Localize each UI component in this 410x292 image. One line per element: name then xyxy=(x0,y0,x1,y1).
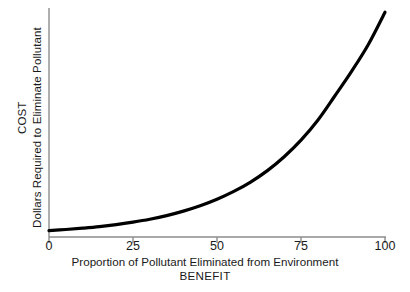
x-axis-tick-labels: 0255075100 xyxy=(0,239,410,255)
x-tick-label-25: 25 xyxy=(126,239,140,253)
x-axis-caption: Proportion of Pollutant Eliminated from … xyxy=(0,255,410,282)
x-axis-caption-line2: BENEFIT xyxy=(0,269,410,283)
y-axis-title-inner: Dollars Required to Eliminate Pollutant xyxy=(31,27,43,228)
y-axis-title-outer: COST xyxy=(16,102,28,134)
x-tick-label-50: 50 xyxy=(210,239,224,253)
clipped-caption-text xyxy=(203,283,206,289)
x-axis-caption-line1: Proportion of Pollutant Eliminated from … xyxy=(72,255,339,268)
cost-curve xyxy=(49,12,385,230)
x-tick-label-75: 75 xyxy=(294,239,308,253)
chart-figure: COST Dollars Required to Eliminate Pollu… xyxy=(0,0,410,292)
x-tick-label-100: 100 xyxy=(375,239,396,253)
x-tick-label-0: 0 xyxy=(46,239,53,253)
clipped-caption-remnant xyxy=(0,283,410,292)
